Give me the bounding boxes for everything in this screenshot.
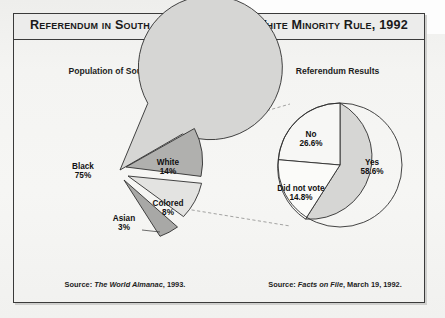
right-source-title: Facts on File [298, 280, 343, 289]
slice-label-did-not-vote: Did not vote 14.8% [265, 184, 337, 202]
slice-label-white-name: White [157, 158, 179, 167]
right-panel-source: Source: Facts on File, March 19, 1992. [240, 280, 430, 289]
left-source-title: The World Almanac [94, 280, 163, 289]
slice-label-colored-pct: 8% [142, 208, 194, 217]
right-source-prefix: Source: [268, 280, 298, 289]
slice-label-yes: Yes 58.6% [350, 158, 394, 176]
figure-canvas: Referendum in South Africa on Ending Whi… [0, 0, 445, 318]
slice-label-colored: Colored 8% [142, 199, 194, 217]
slice-label-asian-pct: 3% [104, 223, 144, 232]
slice-label-did-not-vote-name: Did not vote [277, 184, 324, 193]
slice-label-yes-pct: 58.6% [350, 167, 394, 176]
slice-label-asian: Asian 3% [104, 214, 144, 232]
left-panel-source: Source: The World Almanac, 1993. [30, 280, 220, 289]
slice-label-yes-name: Yes [365, 158, 379, 167]
slice-label-white-pct: 14% [144, 167, 192, 176]
slice-label-colored-name: Colored [153, 199, 184, 208]
left-source-prefix: Source: [65, 280, 95, 289]
slice-label-asian-name: Asian [113, 214, 135, 223]
left-source-suffix: , 1993. [163, 280, 186, 289]
slice-label-black: Black 75% [56, 162, 110, 180]
connector-line-bottom [186, 209, 290, 226]
right-source-suffix: , March 19, 1992. [343, 280, 402, 289]
slice-label-black-name: Black [72, 162, 94, 171]
slice-label-white: White 14% [144, 158, 192, 176]
pie-slice-black [120, 0, 282, 170]
slice-label-no: No 26.6% [289, 130, 333, 148]
slice-label-no-name: No [306, 130, 317, 139]
slice-label-black-pct: 75% [56, 171, 110, 180]
slice-label-no-pct: 26.6% [289, 139, 333, 148]
slice-label-did-not-vote-pct: 14.8% [265, 193, 337, 202]
